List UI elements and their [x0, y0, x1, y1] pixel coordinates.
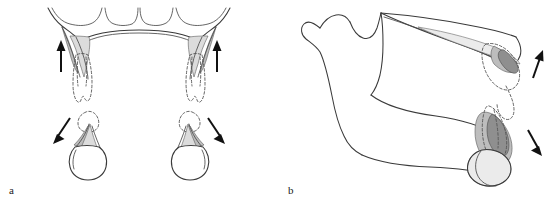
arrow-b-lower [528, 130, 542, 156]
impacted-mandibular-third-molar [467, 106, 512, 186]
panel-label-b: b [288, 185, 294, 196]
arrow-a-lower-left [53, 118, 70, 144]
maxillary-tuberosity-right [188, 27, 216, 79]
maxillary-tuberosity [418, 27, 520, 73]
arrow-b-upper [533, 50, 544, 78]
panel-a-drawing [0, 0, 278, 201]
mandibular-condyle [371, 13, 383, 95]
panel-b: b [278, 0, 556, 201]
sigmoid-notch [350, 13, 381, 39]
mandibular-ramus [302, 22, 362, 155]
figure-root: a [0, 0, 556, 201]
maxillary-tuberosity-left [62, 27, 90, 79]
coronoid-process [320, 15, 350, 28]
panel-label-a: a [9, 185, 14, 196]
arrow-a-upper-right [213, 40, 222, 72]
panel-a: a [0, 0, 278, 201]
mandibular-third-molar-right [171, 111, 208, 180]
panel-b-drawing [278, 0, 556, 201]
arrow-a-upper-left [57, 40, 66, 72]
mandibular-third-molar-left [69, 111, 106, 180]
arrow-a-lower-right [208, 118, 225, 144]
